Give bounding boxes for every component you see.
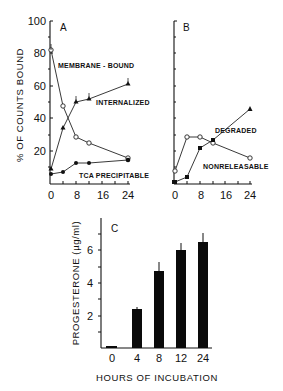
- x-tick-0: 0: [48, 189, 54, 201]
- c-x-tick-24: 24: [197, 352, 209, 364]
- figure: 100 80 60 40 20 0 8 16 24 % OF COUNTS BO…: [0, 0, 283, 391]
- b-x-tick-24: 24: [244, 189, 256, 201]
- y-axis-label: % OF COUNTS BOUND: [14, 48, 25, 162]
- c-x-axis-label: HOURS OF INCUBATION: [96, 372, 218, 383]
- y-tick-20: 20: [34, 145, 46, 157]
- c-y-axis-label: PROGESTERONE (µg/ml): [70, 221, 81, 346]
- c-y-tick-2: 2: [87, 310, 93, 322]
- x-tick-16: 16: [97, 189, 109, 201]
- bar-12h: [176, 250, 186, 348]
- degraded-label: DEGRADED: [215, 127, 257, 134]
- internalized-label: INTERNALIZED: [96, 99, 150, 106]
- panel-b-label: B: [183, 22, 190, 33]
- panel-a: 100 80 60 40 20 0 8 16 24 % OF COUNTS BO…: [14, 15, 150, 201]
- panel-a-label: A: [60, 22, 67, 33]
- y-tick-100: 100: [28, 15, 46, 27]
- c-x-tick-0: 0: [109, 352, 115, 364]
- c-x-tick-8: 8: [156, 352, 162, 364]
- b-x-tick-0: 0: [172, 189, 178, 201]
- error-bars: [137, 233, 203, 309]
- nonreleasable-label: NONRELEASABLE: [203, 163, 269, 170]
- c-y-tick-4: 4: [87, 277, 93, 289]
- b-x-tick-16: 16: [220, 189, 232, 201]
- b-x-tick-8: 8: [198, 189, 204, 201]
- c-y-tick-6: 6: [87, 244, 93, 256]
- y-tick-60: 60: [34, 80, 46, 92]
- c-x-tick-12: 12: [175, 352, 187, 364]
- bar-0h: [106, 346, 117, 348]
- y-tick-80: 80: [34, 47, 46, 59]
- c-x-tick-4: 4: [134, 352, 140, 364]
- panel-c: 6 4 2 PROGESTERONE (µg/ml) C 0 4 8 12 24: [70, 218, 218, 383]
- bar-24h: [198, 242, 208, 348]
- x-tick-8: 8: [74, 189, 80, 201]
- tca-label: TCA PRECIPITABLE: [79, 172, 149, 179]
- y-tick-40: 40: [34, 112, 46, 124]
- membrane-bound-label: MEMBRANE - BOUND: [58, 62, 134, 69]
- panel-c-label: C: [111, 223, 118, 234]
- x-tick-24: 24: [122, 189, 134, 201]
- panel-b: 0 8 16 24 B DEGRADED NONRELEASABLE: [172, 21, 269, 201]
